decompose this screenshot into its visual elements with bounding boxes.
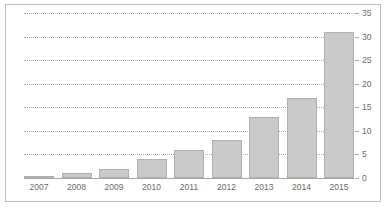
y-axis-label-25: 25 bbox=[362, 56, 371, 65]
bar-2011[interactable] bbox=[174, 150, 204, 178]
bar-2009[interactable] bbox=[99, 169, 129, 178]
bar-2010[interactable] bbox=[137, 159, 167, 178]
bar-slot-2008 bbox=[62, 13, 92, 178]
bar-chart-figure: 200720082009201020112012201320142015 051… bbox=[0, 0, 386, 208]
y-tick-mark-25 bbox=[355, 60, 359, 61]
bar-slot-2015 bbox=[324, 13, 354, 178]
bar-2007[interactable] bbox=[24, 176, 54, 178]
y-tick-mark-0 bbox=[355, 178, 359, 179]
x-axis-baseline bbox=[24, 178, 354, 179]
bars-layer bbox=[24, 13, 354, 178]
y-axis-label-0: 0 bbox=[362, 174, 367, 183]
y-axis-label-10: 10 bbox=[362, 127, 371, 136]
x-axis-label-2009: 2009 bbox=[99, 183, 129, 192]
x-axis-label-2015: 2015 bbox=[324, 183, 354, 192]
y-axis-label-5: 5 bbox=[362, 150, 367, 159]
bar-2015[interactable] bbox=[324, 32, 354, 178]
y-tick-mark-30 bbox=[355, 37, 359, 38]
y-tick-mark-10 bbox=[355, 131, 359, 132]
y-tick-mark-35 bbox=[355, 13, 359, 14]
x-axis-label-2007: 2007 bbox=[24, 183, 54, 192]
y-axis-label-20: 20 bbox=[362, 80, 371, 89]
bar-slot-2012 bbox=[212, 13, 242, 178]
y-tick-mark-15 bbox=[355, 107, 359, 108]
x-axis-label-2013: 2013 bbox=[249, 183, 279, 192]
bar-slot-2013 bbox=[249, 13, 279, 178]
y-axis-label-15: 15 bbox=[362, 103, 371, 112]
x-axis-label-2014: 2014 bbox=[287, 183, 317, 192]
bar-2012[interactable] bbox=[212, 140, 242, 178]
bar-slot-2014 bbox=[287, 13, 317, 178]
bar-slot-2009 bbox=[99, 13, 129, 178]
bar-slot-2007 bbox=[24, 13, 54, 178]
x-axis-tick-labels: 200720082009201020112012201320142015 bbox=[24, 183, 354, 192]
y-axis-label-30: 30 bbox=[362, 33, 371, 42]
bar-2014[interactable] bbox=[287, 98, 317, 178]
x-axis-label-2011: 2011 bbox=[174, 183, 204, 192]
y-tick-mark-20 bbox=[355, 84, 359, 85]
bar-2013[interactable] bbox=[249, 117, 279, 178]
bar-2008[interactable] bbox=[62, 173, 92, 178]
y-axis-label-35: 35 bbox=[362, 9, 371, 18]
x-axis-label-2010: 2010 bbox=[137, 183, 167, 192]
y-tick-mark-5 bbox=[355, 154, 359, 155]
chart-frame-border: 200720082009201020112012201320142015 051… bbox=[5, 4, 381, 202]
clipped-header-text bbox=[56, 0, 356, 3]
bar-slot-2011 bbox=[174, 13, 204, 178]
bar-slot-2010 bbox=[137, 13, 167, 178]
x-axis-label-2012: 2012 bbox=[212, 183, 242, 192]
x-axis-label-2008: 2008 bbox=[62, 183, 92, 192]
